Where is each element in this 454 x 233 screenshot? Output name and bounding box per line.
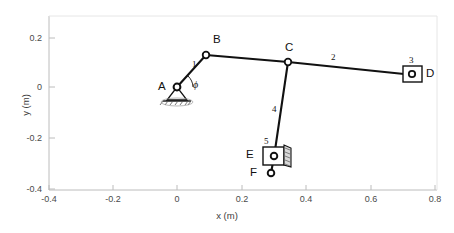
label-joint-d: D xyxy=(426,67,434,79)
axes-frame xyxy=(49,16,437,190)
label-link-5: 5 xyxy=(264,136,269,146)
xtick-label: 0 xyxy=(157,194,197,204)
xtick-label: 0.2 xyxy=(222,194,262,204)
joint-C xyxy=(285,59,292,66)
label-joint-e: E xyxy=(246,148,254,160)
label-link-4: 4 xyxy=(272,104,277,114)
label-joint-b: B xyxy=(213,33,221,45)
y-axis-title: y (m) xyxy=(20,94,31,116)
label-link-1: 1 xyxy=(192,59,197,69)
ytick-label: 0.2 xyxy=(2,33,42,43)
xtick-label: 0.8 xyxy=(415,194,454,204)
label-joint-f: F xyxy=(250,166,257,178)
label-link-2: 2 xyxy=(331,52,336,62)
label-link-3: 3 xyxy=(409,55,414,65)
xtick-label: 0.6 xyxy=(351,194,391,204)
xtick-label: -0.4 xyxy=(29,194,69,204)
x-tick-marks xyxy=(49,185,435,190)
ytick-label: -0.4 xyxy=(2,184,42,194)
label-joint-a: A xyxy=(158,80,166,92)
joint-F xyxy=(268,170,275,177)
label-joint-c: C xyxy=(285,41,293,53)
joint-E xyxy=(271,153,278,160)
y-tick-marks xyxy=(49,38,55,189)
mechanism-figure: -0.4 -0.2 0 0.2 0.4 0.6 0.8 0.2 0 -0.2 -… xyxy=(0,0,454,233)
xtick-label: 0.4 xyxy=(286,194,326,204)
link-2-B-C-D xyxy=(206,55,404,74)
x-axis-title: x (m) xyxy=(0,210,454,221)
y-axis-title-wrapper: y (m) xyxy=(15,75,33,135)
xtick-label: -0.2 xyxy=(93,194,133,204)
joint-B xyxy=(203,52,210,59)
label-angle-phi: ϕ xyxy=(193,79,198,90)
joint-D xyxy=(409,71,415,77)
joint-A xyxy=(174,84,181,91)
